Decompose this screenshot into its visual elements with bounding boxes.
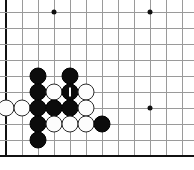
black-stone[interactable] — [94, 116, 111, 133]
star-point-hoshi — [148, 106, 153, 111]
black-stone[interactable] — [30, 132, 47, 149]
grid-line-vertical — [5, 0, 7, 156]
go-board-container — [0, 0, 194, 170]
white-stone[interactable] — [14, 100, 31, 117]
grid-line-vertical — [166, 0, 167, 156]
grid-line-horizontal — [0, 60, 194, 61]
black-stone[interactable] — [62, 100, 79, 117]
black-stone[interactable] — [30, 84, 47, 101]
black-stone[interactable] — [30, 100, 47, 117]
white-stone[interactable] — [78, 116, 95, 133]
grid-line-vertical — [86, 0, 87, 156]
last-move-marker-icon — [69, 88, 71, 97]
grid-line-vertical — [54, 0, 55, 156]
grid-line-horizontal — [0, 44, 194, 45]
grid-line-vertical — [118, 0, 119, 156]
white-stone[interactable] — [0, 100, 15, 117]
grid-line-horizontal — [0, 12, 194, 13]
star-point-hoshi — [52, 10, 57, 15]
star-point-hoshi — [148, 10, 153, 15]
grid-line-vertical — [22, 0, 23, 156]
grid-line-vertical — [150, 0, 151, 156]
white-stone[interactable] — [46, 84, 63, 101]
grid-line-vertical — [182, 0, 183, 156]
black-stone[interactable] — [46, 100, 63, 117]
grid-line-horizontal — [0, 28, 194, 29]
white-stone[interactable] — [62, 116, 79, 133]
grid-line-vertical — [102, 0, 103, 156]
white-stone[interactable] — [78, 100, 95, 117]
black-stone[interactable] — [30, 68, 47, 85]
white-stone[interactable] — [78, 84, 95, 101]
grid-line-vertical — [134, 0, 135, 156]
go-board[interactable] — [0, 0, 194, 170]
black-stone[interactable] — [62, 68, 79, 85]
white-stone[interactable] — [46, 116, 63, 133]
grid-line-horizontal — [0, 155, 194, 157]
black-stone[interactable] — [30, 116, 47, 133]
